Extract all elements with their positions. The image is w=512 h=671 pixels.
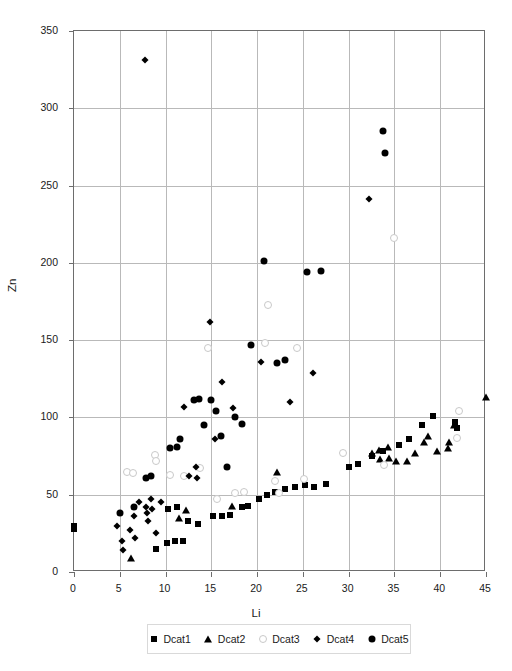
x-tick-label: 10 [159, 583, 171, 593]
legend-marker-icon [313, 635, 322, 644]
legend-marker-icon [367, 635, 376, 644]
legend-item-dcat4[interactable]: Dcat4 [313, 634, 354, 645]
legend-marker-icon [149, 635, 158, 644]
legend-label: Dcat3 [272, 634, 299, 645]
x-tick-label: 20 [250, 583, 262, 593]
x-tick-label: 40 [433, 583, 445, 593]
x-tick-label: 30 [342, 583, 354, 593]
legend-item-dcat1[interactable]: Dcat1 [149, 634, 190, 645]
legend-item-dcat2[interactable]: Dcat2 [204, 634, 245, 645]
x-tick-label: 5 [116, 583, 122, 593]
legend-item-dcat5[interactable]: Dcat5 [367, 634, 408, 645]
y-axis-title: Zn [6, 279, 18, 292]
x-tick-label: 35 [388, 583, 400, 593]
legend-label: Dcat4 [327, 634, 354, 645]
scatter-chart: 050100150200250300350 051015202530354045… [0, 0, 512, 671]
x-tick-label: 0 [70, 583, 76, 593]
x-tick-label: 45 [479, 583, 491, 593]
chart-legend: Dcat1Dcat2Dcat3Dcat4Dcat5 [147, 624, 411, 654]
legend-label: Dcat2 [218, 634, 245, 645]
x-tick-label: 15 [204, 583, 216, 593]
x-axis-title: Li [0, 607, 512, 619]
legend-marker-icon [204, 635, 213, 644]
legend-label: Dcat5 [381, 634, 408, 645]
legend-label: Dcat1 [163, 634, 190, 645]
x-tick-label: 25 [296, 583, 308, 593]
legend-item-dcat3[interactable]: Dcat3 [258, 634, 299, 645]
x-axis-tick-labels: 051015202530354045 [0, 0, 512, 671]
legend-marker-icon [258, 635, 267, 644]
